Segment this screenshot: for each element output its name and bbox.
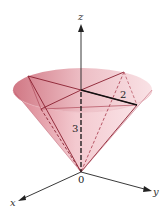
- z-axis-label: z: [77, 11, 84, 22]
- x-arrow-icon: [18, 195, 26, 201]
- y-axis: [81, 172, 152, 192]
- y-arrow-icon: [143, 186, 152, 192]
- z-arrow-icon: [78, 24, 84, 32]
- origin-label: 0: [78, 174, 84, 185]
- x-axis: [18, 172, 81, 201]
- radius-label: 2: [120, 89, 126, 100]
- y-axis-label: y: [152, 186, 159, 197]
- cone-diagram: z x y 0 2 3: [0, 0, 167, 218]
- x-axis-label: x: [10, 197, 16, 208]
- height-label: 3: [72, 123, 78, 134]
